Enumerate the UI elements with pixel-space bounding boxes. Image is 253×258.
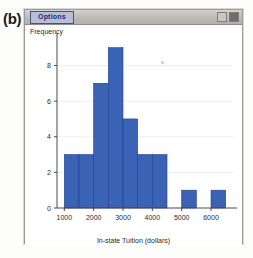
histogram-bar <box>79 155 94 208</box>
histogram-bar <box>94 83 109 208</box>
histogram-chart: 02468100020003000400050006000 <box>25 25 242 233</box>
y-tick-label: 2 <box>47 169 51 176</box>
options-button[interactable]: Options <box>30 11 74 24</box>
histogram-bar <box>138 155 153 208</box>
y-tick-label: 0 <box>47 205 51 212</box>
x-tick-label: 5000 <box>174 214 190 221</box>
histogram-bar <box>182 190 197 208</box>
x-tick-label: 2000 <box>86 214 102 221</box>
window-controls <box>217 12 239 22</box>
x-tick-label: 1000 <box>57 214 73 221</box>
gray-speck-artifact <box>109 201 112 204</box>
histogram-bar <box>152 155 167 208</box>
x-tick-label: 3000 <box>115 214 131 221</box>
close-icon[interactable] <box>229 12 239 22</box>
histogram-bar <box>211 190 226 208</box>
histogram-bar <box>108 48 123 208</box>
histogram-bar <box>123 119 138 208</box>
restore-icon[interactable] <box>217 12 227 22</box>
plot-window: Options Frequency 0246810002000300040005… <box>24 9 243 244</box>
window-titlebar: Options <box>25 10 242 25</box>
histogram-bar <box>64 155 79 208</box>
pink-speck-artifact <box>161 61 164 64</box>
x-tick-label: 4000 <box>145 214 161 221</box>
y-tick-label: 4 <box>47 133 51 140</box>
x-axis-label: In-state Tuition (dollars) <box>25 237 242 244</box>
y-tick-label: 8 <box>47 62 51 69</box>
figure-part-label: (b) <box>3 10 21 27</box>
chart-plot-area: Frequency 02468100020003000400050006000 … <box>25 25 242 245</box>
y-tick-label: 6 <box>47 98 51 105</box>
x-tick-label: 6000 <box>203 214 219 221</box>
